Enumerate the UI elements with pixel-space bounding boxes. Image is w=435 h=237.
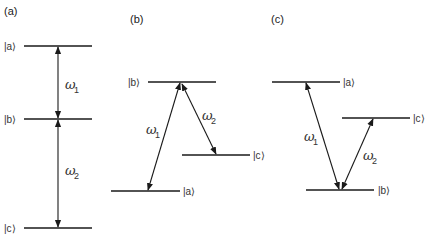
- panel-c: (c) |a⟩ |c⟩ |b⟩ ω 1 ω 2: [271, 13, 425, 196]
- omega-subscript-c-2: 2: [372, 156, 377, 166]
- omega-subscript-a-1: 1: [74, 85, 79, 95]
- level-label-a-middle: |b⟩: [4, 114, 16, 125]
- omega-subscript-b-1: 1: [155, 130, 160, 140]
- energy-level-diagrams: (a) |a⟩ |b⟩ |c⟩ ω 1 ω 2 (b) |b⟩ |c⟩ |a⟩ …: [0, 0, 435, 237]
- level-label-b-bottom: |a⟩: [183, 186, 195, 197]
- omega-subscript-b-2: 2: [211, 116, 216, 126]
- panel-b: (b) |b⟩ |c⟩ |a⟩ ω 1 ω 2: [111, 13, 265, 197]
- panel-label-a: (a): [4, 5, 17, 17]
- level-label-a-bottom: |c⟩: [4, 223, 16, 234]
- omega-subscript-a-2: 2: [74, 171, 79, 181]
- panel-a: (a) |a⟩ |b⟩ |c⟩ ω 1 ω 2: [4, 5, 92, 234]
- panel-label-c: (c): [271, 13, 284, 25]
- level-label-c-top: |a⟩: [343, 77, 355, 88]
- level-label-c-bottom: |b⟩: [378, 185, 390, 196]
- level-label-c-middle: |c⟩: [413, 113, 425, 124]
- panel-label-b: (b): [130, 13, 143, 25]
- level-label-b-middle: |c⟩: [253, 150, 265, 161]
- omega-subscript-c-1: 1: [313, 137, 318, 147]
- level-label-a-top: |a⟩: [4, 41, 16, 52]
- level-label-b-top: |b⟩: [128, 77, 140, 88]
